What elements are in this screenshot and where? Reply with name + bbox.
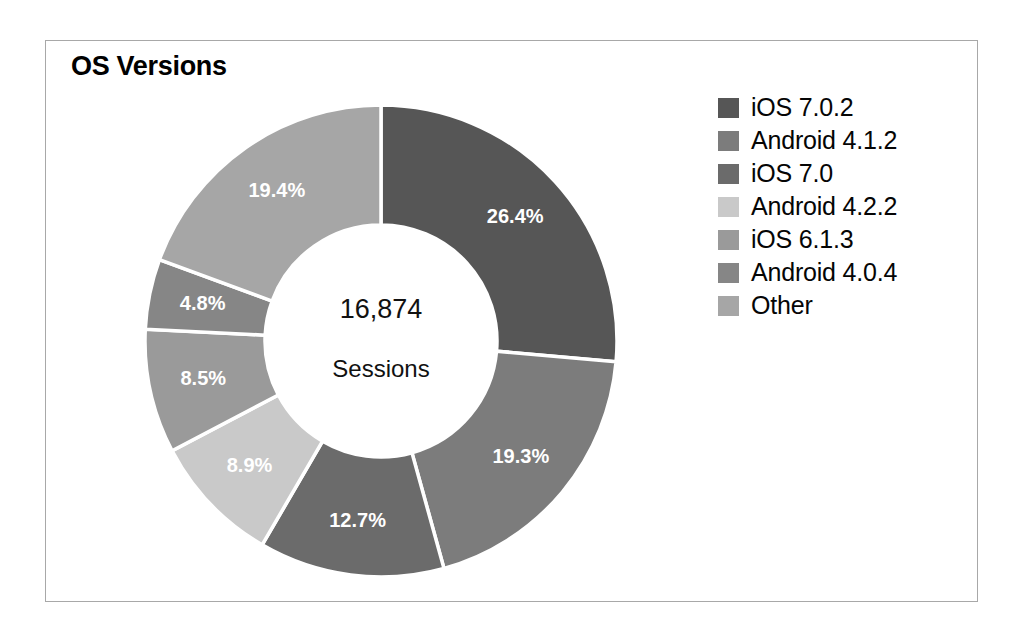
legend-item[interactable]: Android 4.0.4 — [718, 256, 968, 289]
legend-swatch-icon — [718, 164, 739, 184]
legend-swatch-icon — [718, 230, 739, 250]
legend-item-label: Android 4.0.4 — [751, 258, 897, 287]
donut-slices — [145, 105, 617, 577]
legend-swatch-icon — [718, 263, 739, 283]
center-total-value: 16,874 — [340, 294, 423, 324]
donut-slice[interactable] — [159, 105, 381, 301]
center-total-label: Sessions — [332, 355, 429, 382]
slice-percentage-label: 26.4% — [487, 205, 544, 227]
donut-chart: 26.4%19.3%12.7%8.9%8.5%4.8%19.4% 16,874 … — [81, 66, 681, 586]
slice-percentage-label: 12.7% — [329, 509, 386, 531]
legend-swatch-icon — [718, 98, 739, 118]
legend-item[interactable]: Other — [718, 289, 968, 322]
legend-swatch-icon — [718, 296, 739, 316]
chart-legend: iOS 7.0.2Android 4.1.2iOS 7.0Android 4.2… — [718, 91, 968, 322]
slice-percentage-label: 8.5% — [180, 367, 226, 389]
slice-percentage-label: 8.9% — [227, 454, 273, 476]
legend-item-label: Other — [751, 291, 813, 320]
legend-item-label: iOS 6.1.3 — [751, 225, 853, 254]
legend-item-label: iOS 7.0 — [751, 159, 833, 188]
slice-percentage-label: 4.8% — [180, 292, 226, 314]
legend-swatch-icon — [718, 131, 739, 151]
legend-item[interactable]: Android 4.1.2 — [718, 124, 968, 157]
donut-chart-svg: 26.4%19.3%12.7%8.9%8.5%4.8%19.4% 16,874 … — [81, 66, 681, 586]
legend-item-label: Android 4.1.2 — [751, 126, 897, 155]
chart-panel: OS Versions 26.4%19.3%12.7%8.9%8.5%4.8%1… — [45, 40, 978, 602]
legend-item-label: iOS 7.0.2 — [751, 93, 853, 122]
slice-percentage-label: 19.4% — [248, 179, 305, 201]
legend-swatch-icon — [718, 197, 739, 217]
legend-item[interactable]: iOS 6.1.3 — [718, 223, 968, 256]
legend-item[interactable]: Android 4.2.2 — [718, 190, 968, 223]
legend-item[interactable]: iOS 7.0 — [718, 157, 968, 190]
legend-item-label: Android 4.2.2 — [751, 192, 897, 221]
legend-item[interactable]: iOS 7.0.2 — [718, 91, 968, 124]
slice-percentage-label: 19.3% — [493, 445, 550, 467]
